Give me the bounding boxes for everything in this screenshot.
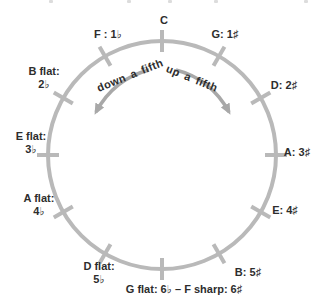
label-a-flat: A flat: 4♭ [24, 192, 55, 218]
label-a: A: 3♯ [284, 146, 310, 159]
label-e-flat-line2: 3♭ [16, 143, 47, 156]
label-e-flat-line1: E flat: [16, 130, 47, 143]
fifths-circle [48, 41, 276, 269]
label-d: D: 2♯ [271, 79, 297, 92]
label-g: G: 1♯ [212, 28, 239, 41]
label-d-flat: D flat: 5♭ [83, 260, 114, 286]
label-d-flat-line2: 5♭ [83, 273, 114, 286]
circle-graphic [0, 0, 321, 307]
label-a-flat-line2: 4♭ [24, 205, 55, 218]
label-g-flat-f-sharp: G flat: 6♭ – F sharp: 6♯ [126, 283, 242, 296]
label-b-flat-line2: 2♭ [28, 78, 59, 91]
label-c: C [160, 14, 168, 27]
label-e: E: 4♯ [272, 204, 298, 217]
label-f: F : 1♭ [94, 28, 122, 41]
label-b: B: 5♯ [235, 266, 261, 279]
label-d-flat-line1: D flat: [83, 260, 114, 273]
label-b-flat: B flat: 2♭ [28, 65, 59, 91]
label-a-flat-line1: A flat: [24, 192, 55, 205]
label-b-flat-line1: B flat: [28, 65, 59, 78]
circle-of-fifths-diagram: C F : 1♭ G: 1♯ B flat: 2♭ D: 2♯ E flat: … [0, 0, 321, 307]
label-e-flat: E flat: 3♭ [16, 130, 47, 156]
